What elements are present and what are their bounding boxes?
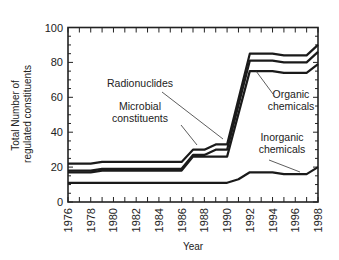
x-tick-label: 1976 (62, 208, 74, 232)
x-tick-label: 1988 (198, 208, 210, 232)
x-tick-label: 1992 (244, 208, 256, 232)
annotation-label: chemicals (268, 100, 315, 112)
x-tick-label: 1982 (130, 208, 142, 232)
y-tick-label: 60 (51, 91, 63, 103)
y-axis: 020406080100 (45, 22, 318, 209)
annotation-pointer (269, 160, 300, 172)
y-axis-title-line-2: regulated constituents (22, 65, 33, 163)
line-chart: 020406080100 197619781980198219841986198… (0, 0, 339, 260)
annotation-label: constituents (112, 112, 168, 124)
x-tick-label: 1996 (289, 208, 301, 232)
y-tick-label: 0 (57, 196, 63, 208)
plot-border (68, 28, 318, 203)
y-tick-label: 100 (45, 22, 63, 34)
annotation-pointer (181, 125, 197, 145)
x-tick-label: 1986 (176, 208, 188, 232)
x-tick-label: 1990 (221, 208, 233, 232)
annotation-label: Inorganic (260, 131, 303, 143)
plot-frame (68, 28, 318, 203)
annotation-label: Radionuclides (107, 77, 173, 89)
x-axis-title: Year (183, 241, 204, 252)
series-lines (68, 45, 318, 183)
y-axis-title-line-1: Total Number of (10, 80, 21, 151)
annotation-pointer (162, 92, 223, 139)
x-tick-label: 1998 (312, 208, 324, 232)
y-tick-label: 80 (51, 56, 63, 68)
x-tick-label: 1994 (267, 208, 279, 232)
y-tick-label: 40 (51, 126, 63, 138)
annotation-label: Microbial (119, 100, 161, 112)
annotation-pointer (256, 71, 273, 94)
x-tick-label: 1984 (153, 208, 165, 232)
y-axis-title: Total Number of regulated constituents (10, 65, 33, 163)
y-tick-label: 20 (51, 161, 63, 173)
annotation-label: chemicals (259, 143, 306, 155)
x-tick-label: 1978 (85, 208, 97, 232)
series-line-2 (68, 64, 318, 172)
annotation-label: Organic (273, 88, 310, 100)
x-tick-label: 1980 (107, 208, 119, 232)
